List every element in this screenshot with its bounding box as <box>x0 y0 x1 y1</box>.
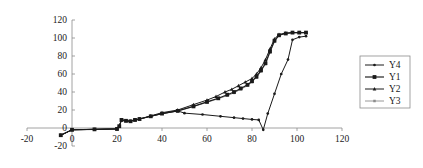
x-tick-label: 100 <box>290 134 305 144</box>
data-point-marker <box>129 119 133 123</box>
data-point-marker <box>373 75 377 79</box>
data-point-marker <box>219 115 222 118</box>
data-point-marker <box>192 105 196 109</box>
data-point-marker <box>277 33 281 37</box>
data-point-marker <box>297 31 301 35</box>
data-point-marker <box>373 100 376 103</box>
series-y2 <box>59 31 308 137</box>
x-tick-label: 20 <box>112 134 122 144</box>
data-point-marker <box>264 61 268 65</box>
data-point-marker <box>138 117 142 121</box>
data-point-marker <box>133 118 137 122</box>
data-point-marker <box>242 117 245 120</box>
data-point-marker <box>262 128 265 131</box>
data-point-marker <box>232 90 236 94</box>
data-point-marker <box>284 32 288 36</box>
y-tick-label: 40 <box>58 87 68 97</box>
legend-label: Y1 <box>389 72 401 82</box>
data-point-marker <box>291 31 295 35</box>
y-tick-label: 20 <box>58 105 68 115</box>
data-point-marker <box>149 114 153 118</box>
data-point-marker <box>268 50 272 54</box>
data-point-marker <box>239 87 243 91</box>
data-point-marker <box>266 112 269 115</box>
data-point-marker <box>117 124 121 128</box>
y-tick-label: 100 <box>53 33 68 43</box>
data-point-marker <box>257 119 260 122</box>
y-tick-label: -20 <box>54 141 67 151</box>
data-point-marker <box>287 58 290 61</box>
data-point-marker <box>291 38 294 41</box>
data-point-marker <box>201 113 204 116</box>
data-point-marker <box>373 64 376 67</box>
data-point-marker <box>205 100 209 104</box>
x-tick-label: 120 <box>335 134 350 144</box>
x-tick-label: 60 <box>202 134 212 144</box>
data-point-marker <box>160 112 164 116</box>
legend-label: Y2 <box>389 84 401 94</box>
x-tick-label: 0 <box>70 134 75 144</box>
x-tick-label: 40 <box>157 134 167 144</box>
legend-label: Y3 <box>389 96 401 106</box>
data-point-marker <box>251 118 254 121</box>
chart-plot-area: -20020406080100120-20020406080100120Y4Y1… <box>0 0 423 168</box>
y-tick-label: 60 <box>58 69 68 79</box>
x-tick-label: -20 <box>21 134 34 144</box>
data-point-marker <box>124 119 128 123</box>
data-point-marker <box>225 93 229 97</box>
y-tick-label: 120 <box>53 15 68 25</box>
data-point-marker <box>259 69 263 73</box>
chart-figure: -20020406080100120-20020406080100120Y4Y1… <box>0 0 423 168</box>
y-tick-label: 80 <box>58 51 68 61</box>
data-point-marker <box>305 35 308 38</box>
data-point-marker <box>93 127 97 131</box>
data-point-marker <box>273 39 277 43</box>
data-point-marker <box>255 75 259 79</box>
data-point-marker <box>246 83 250 87</box>
data-point-marker <box>298 36 301 39</box>
data-point-marker <box>233 116 236 119</box>
x-tick-label: 80 <box>247 134 257 144</box>
data-point-marker <box>304 31 308 35</box>
data-point-marker <box>120 118 124 122</box>
data-point-marker <box>183 112 186 115</box>
data-point-marker <box>176 109 180 113</box>
data-point-marker <box>280 73 283 76</box>
chart-legend: Y4Y1Y2Y3 <box>360 56 410 108</box>
data-point-marker <box>59 133 63 137</box>
legend-label: Y4 <box>389 60 401 70</box>
data-point-marker <box>216 96 220 100</box>
data-point-marker <box>273 92 276 95</box>
data-point-marker <box>250 79 254 83</box>
data-point-marker <box>70 128 74 132</box>
